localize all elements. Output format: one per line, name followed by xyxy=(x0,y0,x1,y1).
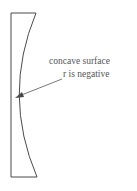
lens-diagram xyxy=(0,0,137,191)
leader-arrow-line xyxy=(19,79,62,96)
label-r-is-negative: r is negative xyxy=(63,70,109,80)
label-concave-surface: concave surface xyxy=(49,57,110,67)
lens-outline xyxy=(11,13,37,177)
